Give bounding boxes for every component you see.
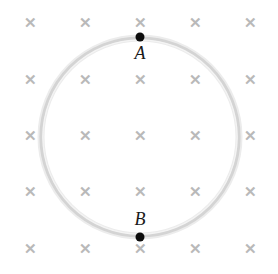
x-mark-icon: ✕ xyxy=(244,72,257,87)
x-mark-icon: ✕ xyxy=(79,184,92,199)
x-mark-icon: ✕ xyxy=(244,241,257,256)
x-mark-icon: ✕ xyxy=(189,15,202,30)
point-a-label: A xyxy=(135,44,146,62)
x-mark-icon: ✕ xyxy=(244,184,257,199)
x-mark-icon: ✕ xyxy=(134,128,147,143)
x-mark-icon: ✕ xyxy=(79,15,92,30)
x-mark-icon: ✕ xyxy=(244,15,257,30)
point-b-dot xyxy=(136,233,145,242)
x-mark-icon: ✕ xyxy=(79,241,92,256)
x-mark-icon: ✕ xyxy=(134,15,147,30)
x-mark-icon: ✕ xyxy=(134,72,147,87)
x-mark-icon: ✕ xyxy=(244,128,257,143)
point-b-label: B xyxy=(135,210,146,228)
x-mark-icon: ✕ xyxy=(79,72,92,87)
x-mark-icon: ✕ xyxy=(24,72,37,87)
point-a-dot xyxy=(136,33,145,42)
x-mark-icon: ✕ xyxy=(24,241,37,256)
x-mark-icon: ✕ xyxy=(189,184,202,199)
x-mark-icon: ✕ xyxy=(24,15,37,30)
x-mark-icon: ✕ xyxy=(189,128,202,143)
x-mark-icon: ✕ xyxy=(24,128,37,143)
x-mark-icon: ✕ xyxy=(189,72,202,87)
x-mark-icon: ✕ xyxy=(134,241,147,256)
physics-figure-canvas: ✕ ✕ ✕ ✕ ✕ ✕ ✕ ✕ ✕ ✕ ✕ ✕ ✕ ✕ ✕ ✕ ✕ ✕ ✕ ✕ … xyxy=(0,0,278,274)
x-mark-icon: ✕ xyxy=(189,241,202,256)
x-mark-icon: ✕ xyxy=(24,184,37,199)
x-mark-icon: ✕ xyxy=(134,184,147,199)
x-mark-icon: ✕ xyxy=(79,128,92,143)
